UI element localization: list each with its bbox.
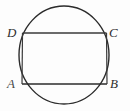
circumscribed-circle: [19, 6, 109, 104]
vertex-label-a: A: [7, 77, 15, 90]
geometry-diagram-canvas: [0, 0, 130, 111]
rectangle-side-cb: [107, 33, 108, 84]
vertex-label-d: D: [7, 26, 16, 39]
vertex-label-b: B: [110, 77, 118, 90]
vertex-label-c: C: [109, 26, 118, 39]
geometry-figure: D C A B: [0, 0, 130, 111]
rectangle-side-da: [22, 33, 23, 84]
